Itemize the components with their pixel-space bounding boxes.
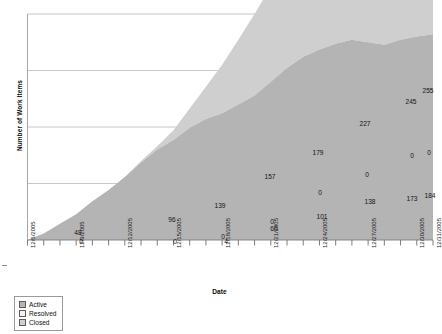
data-point-label: 0: [79, 238, 83, 245]
data-point-label: 0: [173, 238, 177, 245]
legend-label: Resolved: [29, 309, 57, 318]
data-point-label: 0: [318, 189, 322, 196]
data-point-label: 0: [427, 149, 431, 156]
data-point-label: 255: [422, 87, 433, 94]
legend-item-active[interactable]: Active: [19, 300, 57, 309]
x-axis-title: Date: [0, 288, 439, 295]
x-tick-label: 12/12/2005: [127, 218, 133, 248]
legend-swatch-icon: [19, 310, 26, 317]
data-point-label: 173: [406, 195, 417, 202]
x-tick-label: 12/21/2005: [273, 218, 279, 248]
legend-swatch-icon: [19, 301, 26, 308]
data-point-label: 157: [264, 173, 275, 180]
legend-label: Closed: [29, 318, 50, 327]
data-point-label: 48: [74, 229, 81, 236]
data-point-label: 0: [365, 171, 369, 178]
data-point-label: 101: [316, 213, 327, 220]
chart-legend: ActiveResolvedClosed: [14, 296, 63, 331]
x-tick-label: 12/24/2005: [322, 218, 328, 248]
data-point-label: 179: [312, 149, 323, 156]
x-tick-label: 12/31/2005: [436, 218, 442, 248]
data-point-label: 60: [270, 225, 277, 232]
legend-item-resolved[interactable]: Resolved: [19, 309, 57, 318]
left-margin-mark: [2, 265, 7, 266]
data-point-label: 0: [410, 152, 414, 159]
data-point-label: 4: [224, 238, 228, 245]
x-tick-label: 12/27/2005: [371, 218, 377, 248]
data-point-label: 245: [405, 98, 416, 105]
data-point-label: 96: [168, 216, 175, 223]
x-tick-label: 12/6/2005: [30, 221, 36, 248]
data-point-label: 139: [214, 202, 225, 209]
data-point-label: 138: [364, 198, 375, 205]
x-tick-label: 12/30/2005: [419, 218, 425, 248]
legend-label: Active: [29, 300, 47, 309]
data-point-label: 227: [359, 120, 370, 127]
legend-item-closed[interactable]: Closed: [19, 318, 57, 327]
data-point-label: 184: [424, 192, 435, 199]
legend-swatch-icon: [19, 319, 26, 326]
data-point-label: 0: [270, 218, 274, 225]
